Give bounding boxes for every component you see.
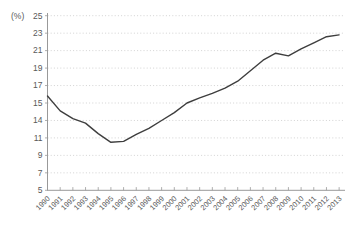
- svg-text:11: 11: [34, 133, 43, 143]
- svg-text:19: 19: [33, 63, 43, 73]
- line-chart-figure: 2523211917151411975 19901991199219931994…: [0, 0, 354, 228]
- y-axis-unit-label: (%): [11, 11, 24, 21]
- svg-text:2013: 2013: [325, 194, 343, 212]
- x-axis-tick-labels: 1990199119921993199419951996199719981999…: [34, 194, 344, 212]
- gridlines: [48, 16, 345, 173]
- x-axis: [48, 187, 346, 190]
- svg-text:15: 15: [33, 98, 43, 108]
- svg-text:5: 5: [38, 185, 43, 195]
- y-axis-tick-labels: 2523211917151411975: [33, 11, 43, 196]
- data-line: [48, 35, 340, 142]
- svg-text:17: 17: [33, 80, 43, 90]
- y-axis: [45, 13, 48, 191]
- svg-text:9: 9: [38, 150, 43, 160]
- line-chart: 2523211917151411975 19901991199219931994…: [0, 0, 354, 228]
- svg-text:23: 23: [33, 28, 43, 38]
- svg-text:25: 25: [33, 11, 43, 21]
- svg-text:21: 21: [33, 45, 43, 55]
- svg-text:14: 14: [33, 115, 43, 125]
- svg-text:7: 7: [38, 168, 43, 178]
